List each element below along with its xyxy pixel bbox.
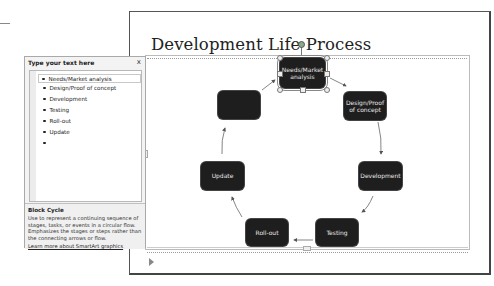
node-label: Update (212, 172, 234, 179)
selection-handle[interactable] (324, 87, 330, 93)
selection-handle[interactable] (277, 87, 283, 93)
text-pane-gutter (30, 71, 36, 201)
item-text: Needs/Market analysis (49, 76, 112, 82)
bullet-icon (43, 109, 46, 112)
text-pane-item[interactable]: Needs/Market analysis (38, 74, 141, 83)
bullet-icon (43, 87, 46, 90)
selection-handle[interactable] (277, 55, 283, 61)
node-label: Roll-out (255, 229, 278, 236)
text-pane-list[interactable]: Needs/Market analysis Design/Proof of co… (29, 70, 142, 202)
bullet-icon (42, 78, 45, 81)
text-pane-title: Type your text here (28, 59, 94, 66)
layout-description-text: Use to represent a continuing sequence o… (28, 215, 142, 241)
node-update[interactable]: Update (201, 162, 244, 190)
item-text: Update (50, 129, 70, 135)
node-label: Testing (326, 229, 347, 236)
item-text: Roll-out (50, 118, 71, 124)
text-pane-item[interactable] (40, 139, 140, 148)
selection-handle[interactable] (324, 71, 330, 77)
layout-name: Block Cycle (28, 207, 64, 213)
item-text: Testing (50, 107, 70, 113)
text-pane-item[interactable]: Roll-out (40, 117, 140, 126)
selection-handle[interactable] (277, 71, 283, 77)
item-text: Design/Proof of concept (50, 85, 117, 91)
rotate-handle[interactable] (298, 41, 305, 48)
bullet-icon (43, 120, 46, 123)
text-pane: Type your text here x Needs/Market analy… (24, 56, 146, 248)
node-empty[interactable] (218, 91, 260, 119)
rotate-handle-stem (301, 47, 302, 56)
text-pane-header[interactable]: Type your text here x (25, 57, 145, 70)
node-label: Development (360, 172, 400, 179)
bullet-icon (43, 98, 46, 101)
node-needs-market-analysis[interactable]: Needs/Market analysis (280, 58, 325, 88)
selection-handle[interactable] (300, 87, 306, 93)
text-pane-item[interactable]: Development (40, 95, 140, 104)
text-pane-item[interactable]: Update (40, 128, 140, 137)
close-icon[interactable]: x (137, 58, 141, 66)
layout-description: Block Cycle Use to represent a continuin… (25, 203, 145, 249)
text-pane-item[interactable]: Design/Proof of concept (40, 84, 140, 93)
node-development[interactable]: Development (359, 162, 402, 190)
text-pane-item[interactable]: Testing (40, 106, 140, 115)
node-roll-out[interactable]: Roll-out (246, 219, 288, 246)
bullet-icon (43, 142, 46, 145)
node-design-proof-of-concept[interactable]: Design/Proof of concept (344, 92, 386, 120)
node-label: Needs/Market analysis (280, 66, 325, 80)
bullet-icon (43, 131, 46, 134)
node-testing[interactable]: Testing (316, 219, 358, 246)
node-label: Design/Proof of concept (344, 99, 386, 113)
selection-handle[interactable] (324, 55, 330, 61)
learn-more-link[interactable]: Learn more about SmartArt graphics (28, 243, 123, 249)
item-text: Development (50, 96, 88, 102)
